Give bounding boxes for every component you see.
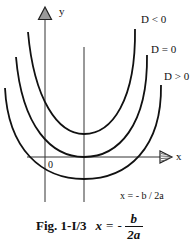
y-axis-label: y [59,6,65,17]
caption-fraction: b 2a [125,212,143,241]
parabola-d-positive [5,85,161,179]
x-axis-label: x [176,151,182,162]
caption-minus: - [117,218,121,234]
x-axis-arrow-icon [160,151,172,163]
curve-label-d-positive: D > 0 [164,71,189,82]
caption-denominator: 2a [125,228,142,241]
symmetry-line-label: x = - b / 2a [120,190,164,201]
curve-label-d-zero: D = 0 [151,44,176,55]
caption-equals: = [106,218,113,234]
caption-numerator: b [129,212,140,225]
figure-caption: Fig. 1-I/3 x = - b 2a [36,209,143,243]
parabola-d-negative [28,29,135,134]
y-axis-arrow-icon [39,7,52,20]
origin-label: 0 [48,159,53,170]
caption-lhs: x [96,218,103,234]
curve-label-d-negative: D < 0 [141,14,166,25]
figure-number: Fig. 1-I/3 [36,218,87,234]
parabola-d-zero [16,55,147,157]
